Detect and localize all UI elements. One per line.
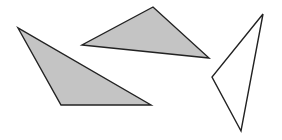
middle-shaded-triangle — [82, 7, 209, 58]
triangles-diagram — [0, 0, 282, 140]
right-unshaded-triangle — [212, 14, 263, 131]
